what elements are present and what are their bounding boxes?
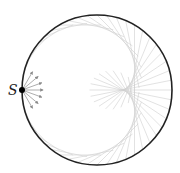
reflected-ray xyxy=(107,113,141,165)
emitted-ray-arrow xyxy=(22,77,38,91)
reflected-ray xyxy=(121,73,150,143)
reflected-ray xyxy=(44,25,73,37)
emitted-ray-arrow xyxy=(22,83,42,90)
source-point-s xyxy=(19,87,25,93)
emitted-ray-arrow xyxy=(22,90,42,97)
reflected-ray xyxy=(44,143,73,155)
cardioid-caustic-diagram: S xyxy=(0,0,180,173)
reflected-ray xyxy=(128,77,142,150)
reflected-ray xyxy=(126,21,139,88)
reflected-ray xyxy=(121,37,150,107)
source-label: S xyxy=(8,82,18,98)
reflected-ray xyxy=(78,18,124,37)
emitted-ray-arrows xyxy=(22,72,43,108)
emitted-ray-arrow xyxy=(22,90,38,104)
reflected-ray xyxy=(128,31,142,104)
reflected-ray xyxy=(107,16,141,68)
